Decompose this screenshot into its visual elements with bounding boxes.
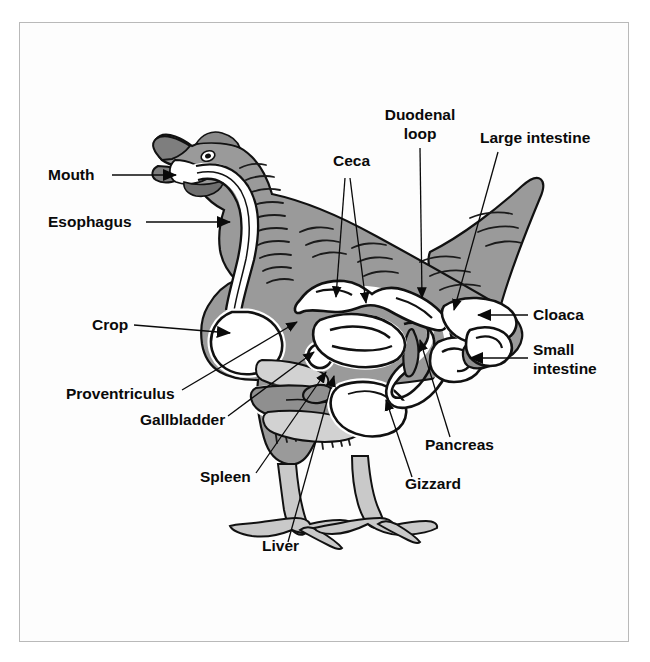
- label-gizzard: Gizzard: [405, 475, 461, 492]
- label-liver: Liver: [262, 537, 299, 554]
- label-cloaca: Cloaca: [533, 306, 584, 323]
- label-proventriculus: Proventriculus: [66, 385, 175, 402]
- label-small-intestine-line1: Small: [533, 341, 574, 358]
- legs-group: [230, 456, 437, 549]
- label-mouth: Mouth: [48, 166, 94, 183]
- chicken-digestive-diagram: Mouth Esophagus Crop Proventriculus Gall…: [0, 0, 650, 662]
- label-duodenal-loop-line1: Duodenal: [385, 106, 456, 123]
- label-ceca: Ceca: [333, 152, 370, 169]
- pancreas-shape: [403, 329, 418, 376]
- label-spleen: Spleen: [200, 468, 251, 485]
- label-esophagus: Esophagus: [48, 213, 132, 230]
- label-duodenal-loop-line2: loop: [404, 125, 437, 142]
- label-pancreas: Pancreas: [425, 436, 494, 453]
- label-small-intestine-line2: intestine: [533, 360, 597, 377]
- label-crop: Crop: [92, 316, 128, 333]
- label-gallbladder: Gallbladder: [140, 411, 225, 428]
- label-large-intestine: Large intestine: [480, 129, 591, 146]
- cloaca-shape: [466, 327, 512, 366]
